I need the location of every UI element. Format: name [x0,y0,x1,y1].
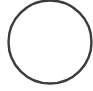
circle-shape [9,1,92,84]
canvas [0,0,93,91]
circle-outline-icon [0,0,93,91]
